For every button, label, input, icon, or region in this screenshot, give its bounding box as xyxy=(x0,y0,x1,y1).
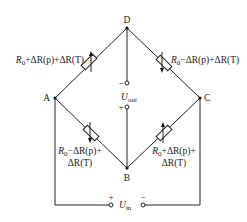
node-a xyxy=(53,96,56,99)
bridge-circuit-diagram: D A C B − + Uout + − Uin R0+ΔR(p)+ΔR(T) … xyxy=(0,0,247,222)
resistor-dc xyxy=(156,55,172,70)
resistor-bc-label-line1: R0+ΔR(p)+ xyxy=(151,146,196,158)
output-terminal-plus xyxy=(125,105,129,109)
resistor-ab-label-line2: ΔR(T) xyxy=(68,158,93,169)
resistor-bc xyxy=(156,125,172,140)
output-terminal-minus xyxy=(125,81,129,85)
output-plus-sign: + xyxy=(118,102,123,112)
node-b xyxy=(125,166,128,169)
node-label-d: D xyxy=(124,15,131,25)
output-minus-sign: − xyxy=(118,78,123,88)
input-terminal-minus xyxy=(141,203,145,207)
resistor-ad-label: R0+ΔR(p)+ΔR(T) xyxy=(15,55,84,67)
input-terminal-plus xyxy=(109,203,113,207)
resistor-ab-label-line1: R0−ΔR(p)+ xyxy=(57,146,102,158)
node-d xyxy=(125,26,128,29)
node-label-c: C xyxy=(204,93,210,103)
node-label-b: B xyxy=(124,173,130,183)
input-plus-sign: + xyxy=(108,192,113,202)
input-voltage-label: Uin xyxy=(119,200,132,212)
node-label-a: A xyxy=(43,93,50,103)
node-c xyxy=(198,96,201,99)
resistor-dc-label: R0−ΔR(p)+ΔR(T) xyxy=(170,55,239,67)
input-minus-sign: − xyxy=(140,192,145,202)
resistor-bc-label-line2: ΔR(T) xyxy=(162,158,187,169)
